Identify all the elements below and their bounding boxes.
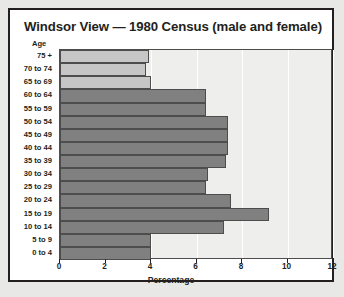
- bar: [60, 116, 228, 129]
- x-axis-tick-label: 6: [193, 262, 198, 271]
- y-axis-tick-label: 25 to 29: [10, 180, 55, 193]
- bar-row: [60, 208, 331, 221]
- bar: [60, 168, 208, 181]
- y-axis-tick-label: 10 to 14: [10, 220, 55, 233]
- bar-row: [60, 89, 331, 102]
- bar: [60, 221, 224, 234]
- bar-row: [60, 181, 331, 194]
- bar-row: [60, 116, 331, 129]
- y-axis-tick-label: 20 to 24: [10, 193, 55, 206]
- bar: [60, 142, 228, 155]
- bar-row: [60, 155, 331, 168]
- bar-row: [60, 234, 331, 247]
- gridline: [333, 50, 334, 258]
- bar: [60, 129, 228, 142]
- x-axis-tick-label: 10: [282, 262, 291, 271]
- bar-row: [60, 142, 331, 155]
- x-axis-tick-label: 8: [239, 262, 244, 271]
- y-axis-tick-label: 15 to 19: [10, 207, 55, 220]
- bar-row: [60, 76, 331, 89]
- y-axis-tick-label: 50 to 54: [10, 115, 55, 128]
- bar: [60, 63, 146, 76]
- bar: [60, 181, 206, 194]
- bar-row: [60, 63, 331, 76]
- y-axis-tick-label: 70 to 74: [10, 62, 55, 75]
- y-axis-tick-labels: 75 +70 to 7465 to 6960 to 6455 to 5950 t…: [10, 49, 55, 259]
- x-axis-tick-label: 0: [57, 262, 62, 271]
- y-axis-tick-label: 30 to 34: [10, 167, 55, 180]
- y-axis-tick-label: 45 to 49: [10, 128, 55, 141]
- x-axis-tick-label: 4: [148, 262, 153, 271]
- y-axis-tick-label: 40 to 44: [10, 141, 55, 154]
- y-axis-tick-label: 35 to 39: [10, 154, 55, 167]
- x-axis-tick-label: 2: [102, 262, 107, 271]
- bar-row: [60, 168, 331, 181]
- bar: [60, 155, 226, 168]
- bar: [60, 194, 231, 207]
- bar: [60, 89, 206, 102]
- bar: [60, 50, 149, 63]
- bar: [60, 76, 151, 89]
- y-axis-tick-label: 75 +: [10, 49, 55, 62]
- page-title: Windsor View — 1980 Census (male and fem…: [24, 19, 324, 34]
- bar-row: [60, 194, 331, 207]
- bar: [60, 234, 151, 247]
- y-axis-tick-label: 0 to 4: [10, 246, 55, 259]
- y-axis-tick-label: 5 to 9: [10, 233, 55, 246]
- bar: [60, 103, 206, 116]
- y-axis-title: Age: [32, 39, 46, 48]
- y-axis-tick-label: 55 to 59: [10, 102, 55, 115]
- y-axis-tick-label: 65 to 69: [10, 75, 55, 88]
- bar-row: [60, 103, 331, 116]
- bar-series: [60, 50, 331, 258]
- bar-row: [60, 129, 331, 142]
- chart-panel: Windsor View — 1980 Census (male and fem…: [8, 8, 334, 282]
- bar-row: [60, 50, 331, 63]
- bar-row: [60, 221, 331, 234]
- x-axis-tick-label: 12: [327, 262, 336, 271]
- plot-area: [59, 49, 332, 259]
- bar: [60, 208, 269, 221]
- y-axis-tick-label: 60 to 64: [10, 88, 55, 101]
- x-axis-tick-labels: 024681012: [59, 262, 332, 274]
- x-axis-title: Percentage: [10, 275, 332, 285]
